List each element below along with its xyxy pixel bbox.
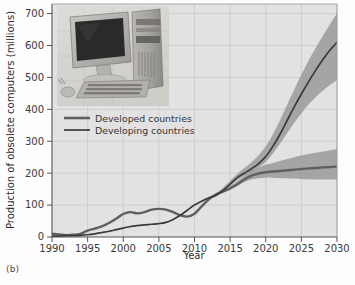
y-tick-label: 100: [25, 199, 44, 210]
y-tick-label: 400: [25, 104, 44, 115]
x-tick-label: 2015: [217, 243, 242, 254]
x-tick-label: 1990: [39, 243, 64, 254]
x-tick-label: 2030: [324, 243, 349, 254]
y-tick-label: 600: [25, 40, 44, 51]
x-axis-title: Year: [182, 250, 205, 261]
legend-label-developed: Developed countries: [95, 113, 192, 124]
y-tick-label: 300: [25, 136, 44, 147]
y-tick-label: 0: [38, 231, 44, 242]
desktop-computer-photo: [57, 6, 169, 106]
y-axis-ticks: 0100200300400500600700: [25, 8, 52, 242]
x-tick-label: 2005: [146, 243, 171, 254]
x-tick-label: 2000: [111, 243, 136, 254]
x-tick-label: 2020: [253, 243, 278, 254]
legend-label-developing: Developing countries: [95, 125, 195, 136]
y-tick-label: 500: [25, 72, 44, 83]
y-axis-title: Production of obsolete computers (millio…: [5, 11, 16, 229]
obsolete-computers-line-chart: Developed countries Developing countries…: [0, 0, 355, 262]
figure-panel: Developed countries Developing countries…: [0, 0, 355, 285]
y-tick-label: 200: [25, 168, 44, 179]
x-tick-label: 1995: [75, 243, 100, 254]
x-tick-label: 2025: [289, 243, 314, 254]
figure-caption: (b): [6, 264, 19, 274]
y-tick-label: 700: [25, 8, 44, 19]
